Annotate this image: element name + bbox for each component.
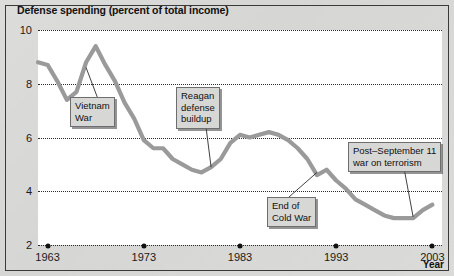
x-axis-title: Year [423,259,444,270]
annotation-post-september-11: Post–September 11 war on terrorism [348,142,441,172]
x-tick-dot-2003 [430,244,435,249]
y-axis-labels: 108642 [0,30,32,245]
annotation-vietnam-war: Vietnam War [70,97,115,127]
annotation-reagan-defense-buildup: Reagan defense buildup [176,87,220,129]
y-tick-label-10: 10 [6,24,32,36]
chart-title: Defense spending (percent of total incom… [17,4,229,16]
y-tick-label-2: 2 [6,239,32,251]
x-tick-dot-1963 [45,244,50,249]
plot-area [38,30,442,245]
x-tick-label-1963: 1963 [35,251,59,263]
x-tick-label-1993: 1993 [324,251,348,263]
annotation-end-of-cold-war: End of Cold War [267,197,316,227]
x-tick-dot-1973 [141,244,146,249]
chart-figure: Defense spending (percent of total incom… [0,0,454,276]
x-tick-dot-1983 [238,244,243,249]
y-tick-label-6: 6 [6,132,32,144]
x-tick-dot-1993 [334,244,339,249]
x-axis-labels: 19631973198319932003 [38,245,442,261]
x-tick-label-1983: 1983 [228,251,252,263]
annotation-leader-lines [38,30,442,245]
y-tick-label-4: 4 [6,185,32,197]
x-tick-label-1973: 1973 [132,251,156,263]
y-tick-label-8: 8 [6,78,32,90]
